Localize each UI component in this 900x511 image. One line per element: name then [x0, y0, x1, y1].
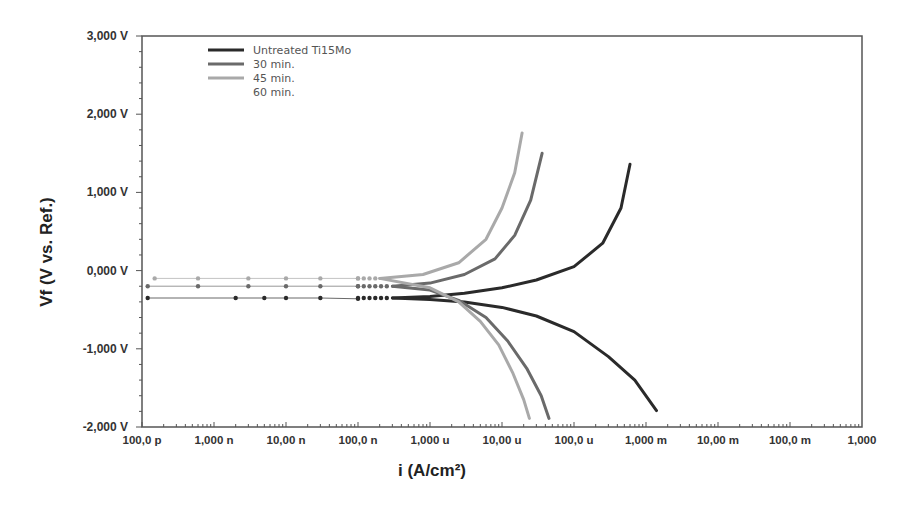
y-tick-label: 0,000 V — [87, 264, 128, 278]
y-axis-title: Vf (V vs. Ref.) — [37, 197, 56, 307]
x-tick-label: 100,0 p — [123, 434, 162, 446]
x-tick-label: 100,0 u — [555, 434, 594, 446]
x-tick-label: 10,00 u — [483, 434, 522, 446]
x-axis-tick-labels: 100,0 p1,000 n10,00 n100,0 n1,000 u10,00… — [123, 434, 877, 446]
legend-label: 45 min. — [253, 72, 295, 85]
legend-label: Untreated Ti15Mo — [253, 44, 352, 57]
legend-item: 30 min. — [208, 58, 295, 71]
x-axis-title: i (A/cm²) — [398, 461, 466, 480]
legend-item: 60 min. — [208, 86, 295, 99]
x-tick-label: 1,000 — [848, 434, 877, 446]
y-axis-ticks — [136, 36, 142, 427]
x-tick-label: 10,00 n — [267, 434, 306, 446]
series-30-min — [146, 153, 549, 418]
legend-item: 45 min. — [208, 72, 295, 85]
plot-frame — [142, 36, 862, 427]
polarization-chart: 3,000 V2,000 V1,000 V0,000 V-1,000 V-2,0… — [0, 0, 900, 511]
y-tick-label: 2,000 V — [87, 107, 128, 121]
legend-label: 60 min. — [253, 86, 295, 99]
y-axis-tick-labels: 3,000 V2,000 V1,000 V0,000 V-1,000 V-2,0… — [83, 29, 128, 434]
y-tick-label: -1,000 V — [83, 342, 128, 356]
legend-item: Untreated Ti15Mo — [208, 44, 352, 57]
legend: Untreated Ti15Mo30 min.45 min.60 min. — [208, 44, 352, 99]
x-tick-label: 100,0 m — [769, 434, 811, 446]
legend-label: 30 min. — [253, 58, 295, 71]
y-tick-label: 3,000 V — [87, 29, 128, 43]
x-tick-label: 1,000 u — [411, 434, 450, 446]
y-tick-label: 1,000 V — [87, 185, 128, 199]
x-tick-label: 1,000 m — [625, 434, 667, 446]
plot-curves — [146, 133, 657, 418]
x-tick-label: 100,0 n — [339, 434, 378, 446]
x-tick-label: 10,00 m — [697, 434, 739, 446]
series-45-min — [152, 133, 529, 418]
y-tick-label: -2,000 V — [83, 420, 128, 434]
x-tick-label: 1,000 n — [195, 434, 234, 446]
